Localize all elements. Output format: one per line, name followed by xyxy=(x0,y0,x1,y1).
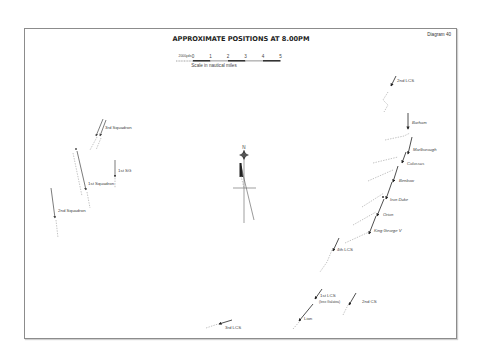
trail xyxy=(73,153,82,196)
compass-arrow-icon xyxy=(240,163,244,177)
unit-label: Orion xyxy=(383,212,394,217)
unit-1st-squadron: 1st Squadron xyxy=(73,148,115,208)
trail xyxy=(293,321,300,329)
unit-label: 1st LCS xyxy=(320,293,336,298)
scale-tick-3: 3 xyxy=(244,54,247,59)
unit-label: Colossus xyxy=(407,161,425,166)
course-arrow-icon xyxy=(77,151,86,190)
unit-label: Benbow xyxy=(399,178,415,183)
unit-2nd-lcs: 2nd LCS xyxy=(383,76,414,112)
unit-orion: Orion xyxy=(353,199,394,225)
unit-4th-lcs: 4th LCS xyxy=(320,238,353,272)
unit-label: 2nd Squadron xyxy=(58,208,86,213)
trail xyxy=(383,92,388,112)
compass-bearing-line xyxy=(241,166,254,220)
trail xyxy=(373,157,398,163)
trail xyxy=(87,192,90,208)
trail xyxy=(368,170,393,181)
course-arrow-icon xyxy=(391,76,396,86)
scale-segment-3 xyxy=(228,60,246,62)
unit-1st-sg: 1st SG xyxy=(115,160,132,188)
unit-colossus: Colossus xyxy=(373,152,425,166)
unit-3rd-squadron: 3rd Squadron xyxy=(90,119,132,150)
course-arrow-icon xyxy=(96,119,103,136)
trail xyxy=(96,138,101,150)
unit-label: 1st SG xyxy=(118,168,132,173)
trail xyxy=(320,250,332,272)
trail xyxy=(206,324,218,328)
unit-label: 1st Squadron xyxy=(88,181,115,186)
unit-label: King George V xyxy=(374,228,403,233)
course-arrow-icon xyxy=(402,152,406,163)
unit-2nd-squadron: 2nd Squadron xyxy=(51,188,86,238)
scale-unit-label: 2000yds xyxy=(179,54,192,58)
unit-label: 3rd LCS xyxy=(225,325,241,330)
trail xyxy=(353,212,376,225)
scale-segment-1 xyxy=(193,60,211,62)
unit-label: 2nd LCS xyxy=(397,78,414,83)
unit-1st-lcs: 1st LCS (less Galatea) xyxy=(315,289,340,304)
scale-tick-2: 2 xyxy=(227,54,230,59)
trail xyxy=(385,133,410,140)
unit-king-george-v: King George V xyxy=(345,216,403,243)
scale-tick-0: 0 xyxy=(192,54,195,59)
course-arrow-icon xyxy=(408,137,412,154)
unit-label: Lion xyxy=(304,316,313,321)
trail xyxy=(345,232,369,243)
scale-bar: 2000yds 0 1 2 3 4 5 Scale in nautical mi… xyxy=(176,54,282,68)
unit-marlborough: Marlborough xyxy=(385,133,437,154)
unit-label: Marlborough xyxy=(413,147,437,152)
trail xyxy=(56,220,58,238)
unit-2nd-cs: 2nd CS xyxy=(343,293,377,315)
scale-segment-2 xyxy=(211,60,229,62)
trail xyxy=(362,193,384,207)
flagship-marker-icon xyxy=(382,196,384,198)
scale-tick-4: 4 xyxy=(262,54,265,59)
unit-label: Barham xyxy=(412,120,427,125)
compass-north-label: N xyxy=(242,145,245,150)
flagship-marker-icon xyxy=(75,148,77,150)
course-arrow-icon xyxy=(393,166,398,182)
scale-segment-4 xyxy=(246,60,264,62)
scale-tick-1: 1 xyxy=(209,54,212,59)
scale-segment-5 xyxy=(263,60,281,62)
unit-3rd-lcs: 3rd LCS xyxy=(206,320,241,330)
diagram-number: Diagram 40 xyxy=(427,32,451,37)
unit-label: 2nd CS xyxy=(362,299,377,304)
scale-tick-5: 5 xyxy=(279,54,282,59)
battle-diagram: APPROXIMATE POSITIONS AT 8.00PM Diagram … xyxy=(0,0,482,360)
course-arrow-icon xyxy=(51,188,55,218)
unit-benbow: Benbow xyxy=(368,166,415,183)
unit-label: 4th LCS xyxy=(337,247,353,252)
course-arrow-icon xyxy=(349,293,356,305)
compass: N xyxy=(233,145,256,223)
unit-lion: Lion xyxy=(293,304,313,329)
trail xyxy=(343,305,348,315)
compass-rose-cross-icon xyxy=(239,153,249,158)
diagram-title: APPROXIMATE POSITIONS AT 8.00PM xyxy=(172,35,309,43)
trail xyxy=(90,137,97,150)
unit-label: Iron Duke xyxy=(390,197,409,202)
course-arrow-icon xyxy=(219,320,232,324)
unit-iron-duke: Iron Duke xyxy=(362,182,409,207)
scale-caption: Scale in nautical miles xyxy=(191,63,237,68)
unit-sublabel: (less Galatea) xyxy=(319,300,340,304)
unit-barham: Barham xyxy=(408,113,427,129)
unit-label: 3rd Squadron xyxy=(105,125,132,130)
